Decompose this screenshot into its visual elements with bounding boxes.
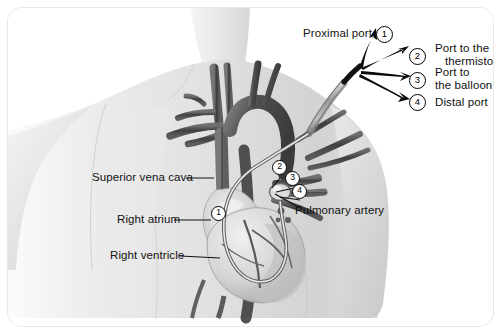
anatomy-label-pulmonary-artery: Pulmonary artery bbox=[295, 204, 384, 217]
anatomy-circle-4: 4 bbox=[292, 184, 307, 199]
figure-canvas: Proximal port Port to the thermistor Por… bbox=[0, 0, 501, 334]
callout-circle-2: 2 bbox=[409, 48, 426, 65]
anatomy-label-superior-vena-cava: Superior vena cava bbox=[92, 171, 193, 184]
callout-circle-4: 4 bbox=[409, 94, 426, 111]
callout-label-thermistor: Port to the thermistor bbox=[435, 42, 493, 67]
callout-label-proximal-port: Proximal port bbox=[303, 27, 372, 40]
callout-label-balloon-line2: the balloon bbox=[435, 79, 492, 92]
callout-label-balloon: Port to the balloon bbox=[435, 66, 492, 91]
figure-card: Proximal port Port to the thermistor Por… bbox=[8, 8, 493, 326]
callout-label-distal-port: Distal port bbox=[435, 96, 488, 109]
anatomy-label-right-atrium: Right atrium bbox=[117, 213, 180, 226]
callout-circle-3: 3 bbox=[409, 72, 426, 89]
anatomy-circle-1: 1 bbox=[211, 206, 226, 221]
anatomy-circle-2: 2 bbox=[272, 160, 287, 175]
callout-circle-1: 1 bbox=[376, 26, 393, 43]
anatomy-label-right-ventricle: Right ventricle bbox=[110, 249, 184, 262]
callout-label-balloon-line1: Port to bbox=[435, 66, 492, 79]
callout-label-thermistor-line1: Port to the bbox=[435, 42, 493, 55]
